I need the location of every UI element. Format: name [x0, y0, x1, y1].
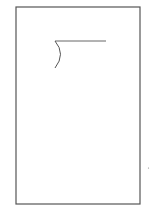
stray-mark — [148, 167, 149, 168]
frame-rectangle — [16, 7, 140, 204]
line-drawing — [0, 0, 150, 206]
arc-curve — [55, 41, 61, 68]
